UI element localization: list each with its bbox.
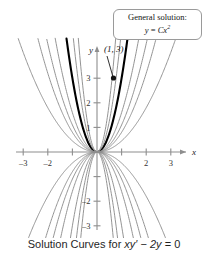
y-tick-label-3: 3 — [86, 73, 90, 83]
general-solution-callout: General solution: y = Cx2 — [113, 9, 202, 40]
y-tick-label--3: –3 — [81, 221, 91, 231]
axes: –3–223–3–2123 x y — [16, 45, 196, 231]
caption-lhs: xy′ — [124, 238, 137, 250]
y-axis-arrow — [95, 46, 100, 52]
callout-equals: = — [149, 25, 158, 35]
figure-caption: Solution Curves for xy′ − 2y = 0 — [0, 238, 208, 250]
figure: –3–223–3–2123 x y General solution: y = … — [0, 0, 208, 261]
caption-minus: − — [137, 238, 150, 250]
point-marker — [111, 75, 116, 80]
y-tick-label--2: –2 — [81, 196, 91, 206]
x-tick-label-3: 3 — [169, 158, 173, 168]
y-axis-label: y — [88, 45, 93, 55]
caption-end: = 0 — [162, 238, 181, 250]
callout-line-1: General solution: — [128, 13, 187, 23]
x-axis-arrow — [180, 150, 186, 155]
callout-line-2: y = Cx2 — [145, 24, 170, 36]
caption-prefix: Solution Curves for — [28, 238, 125, 250]
marked-point-group — [107, 56, 116, 81]
x-tick-label--3: –3 — [18, 158, 28, 168]
leader-line — [107, 56, 113, 77]
caption-rhs: 2y — [150, 238, 162, 250]
x-tick-label--2: –2 — [43, 158, 53, 168]
x-axis-label: x — [191, 147, 196, 157]
callout-exponent: 2 — [167, 24, 170, 30]
point-label: (1, 3) — [104, 44, 124, 54]
x-tick-label-2: 2 — [144, 158, 148, 168]
y-tick-label-1: 1 — [86, 123, 90, 133]
y-tick-label-2: 2 — [86, 98, 90, 108]
